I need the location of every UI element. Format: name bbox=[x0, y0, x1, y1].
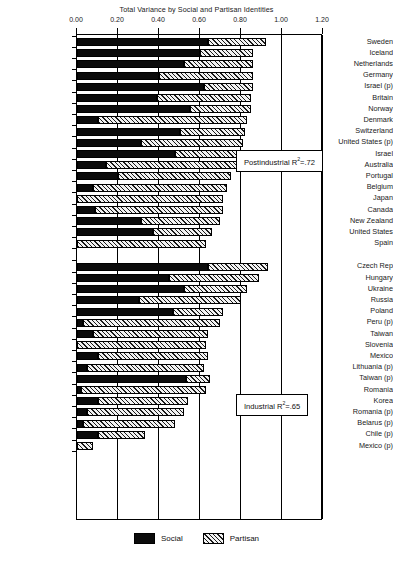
bar-segment-partisan bbox=[141, 139, 244, 147]
bar-segment-social bbox=[77, 431, 98, 439]
y-tick bbox=[72, 36, 76, 37]
y-axis-label: Ukraine bbox=[319, 284, 393, 293]
legend-label-social: Social bbox=[161, 534, 183, 543]
bar-segment-social bbox=[77, 49, 200, 57]
y-tick bbox=[72, 47, 76, 48]
y-tick bbox=[72, 283, 76, 284]
bar-segment-partisan bbox=[77, 240, 206, 248]
y-axis-label: Romania bbox=[319, 385, 393, 394]
bar-segment-social bbox=[77, 116, 98, 124]
bar-segment-social bbox=[77, 364, 87, 372]
y-tick bbox=[72, 114, 76, 115]
bar-segment-partisan bbox=[186, 375, 211, 383]
bar-segment-partisan bbox=[81, 386, 206, 394]
bar-segment-social bbox=[77, 161, 106, 169]
y-axis-label: Korea bbox=[319, 396, 393, 405]
bar-segment-social bbox=[77, 397, 98, 405]
chart-title: Total Variance by Social and Partisan Id… bbox=[0, 5, 393, 14]
bar-segment-social bbox=[77, 206, 95, 214]
y-axis-label: Netherlands bbox=[319, 59, 393, 68]
y-tick bbox=[72, 215, 76, 216]
bar-segment-partisan bbox=[77, 195, 223, 203]
y-tick bbox=[72, 428, 76, 429]
y-tick bbox=[72, 170, 76, 171]
y-axis-label: Belarus (p) bbox=[319, 418, 393, 427]
bar-segment-partisan bbox=[98, 116, 248, 124]
y-tick bbox=[72, 406, 76, 407]
bar-segment-social bbox=[77, 352, 98, 360]
y-axis-label: Portugal bbox=[319, 171, 393, 180]
y-axis-label: United States (p) bbox=[319, 137, 393, 146]
y-axis-label: Iceland bbox=[319, 48, 393, 57]
y-tick bbox=[72, 350, 76, 351]
bar-segment-partisan bbox=[95, 206, 222, 214]
x-tick-label: 0.00 bbox=[69, 16, 83, 23]
y-axis-label: Denmark bbox=[319, 115, 393, 124]
y-axis-label: United States bbox=[319, 227, 393, 236]
y-axis-label: Norway bbox=[319, 104, 393, 113]
legend-label-partisan: Partisan bbox=[230, 534, 259, 543]
bar-segment-partisan bbox=[159, 72, 253, 80]
x-tick-label: 0.60 bbox=[192, 16, 206, 23]
bar-segment-partisan bbox=[141, 217, 221, 225]
y-tick bbox=[72, 316, 76, 317]
y-tick bbox=[72, 136, 76, 137]
bar-segment-social bbox=[77, 296, 139, 304]
y-tick bbox=[72, 328, 76, 329]
y-axis-label: Slovenia bbox=[319, 340, 393, 349]
y-tick bbox=[72, 395, 76, 396]
bar-segment-social bbox=[77, 184, 93, 192]
y-axis-label: Mexico bbox=[319, 351, 393, 360]
y-tick bbox=[72, 237, 76, 238]
y-axis-label: Canada bbox=[319, 205, 393, 214]
y-axis-label: Taiwan (p) bbox=[319, 373, 393, 382]
y-tick bbox=[72, 440, 76, 441]
y-axis-label: Japan bbox=[319, 193, 393, 202]
y-tick bbox=[72, 69, 76, 70]
y-tick bbox=[72, 204, 76, 205]
bar-segment-partisan bbox=[106, 161, 237, 169]
y-tick bbox=[72, 181, 76, 182]
y-tick bbox=[72, 417, 76, 418]
bar-segment-partisan bbox=[139, 296, 242, 304]
bar-segment-social bbox=[77, 72, 159, 80]
y-axis-label: New Zealand bbox=[319, 216, 393, 225]
y-tick bbox=[72, 148, 76, 149]
legend-swatch-social-icon bbox=[134, 533, 155, 544]
y-tick bbox=[72, 103, 76, 104]
bar-segment-partisan bbox=[98, 397, 188, 405]
bar-segment-social bbox=[77, 217, 141, 225]
y-tick bbox=[72, 294, 76, 295]
bar-segment-partisan bbox=[118, 172, 231, 180]
bar-segment-social bbox=[77, 128, 180, 136]
y-tick bbox=[72, 58, 76, 59]
y-axis-label: Spain bbox=[319, 238, 393, 247]
y-tick bbox=[72, 226, 76, 227]
y-tick bbox=[72, 159, 76, 160]
bar-segment-partisan bbox=[173, 308, 222, 316]
bar-segment-partisan bbox=[93, 330, 208, 338]
bar-segment-partisan bbox=[93, 184, 226, 192]
bar-segment-partisan bbox=[87, 408, 183, 416]
y-axis-label: Romania (p) bbox=[319, 407, 393, 416]
x-tick-label: 1.20 bbox=[315, 16, 329, 23]
bar-segment-social bbox=[77, 94, 157, 102]
bar-segment-social bbox=[77, 60, 184, 68]
bar-segment-social bbox=[77, 172, 118, 180]
y-axis-label: Israel (p) bbox=[319, 81, 393, 90]
y-tick bbox=[72, 372, 76, 373]
legend-swatch-partisan-icon bbox=[203, 533, 224, 544]
y-axis-label: Belgium bbox=[319, 182, 393, 191]
bar-segment-social bbox=[77, 308, 173, 316]
y-tick bbox=[72, 92, 76, 93]
bar-segment-social bbox=[77, 38, 208, 46]
annotation-postindustrial-r2: Postindustrial R2=.72 bbox=[236, 150, 323, 172]
y-axis-label: Russia bbox=[319, 295, 393, 304]
y-axis-label: Chile (p) bbox=[319, 429, 393, 438]
y-tick bbox=[72, 248, 76, 249]
y-axis-label: Taiwan bbox=[319, 329, 393, 338]
bar-segment-partisan bbox=[98, 352, 209, 360]
x-tick-label: 0.20 bbox=[110, 16, 124, 23]
bar-segment-social bbox=[77, 228, 153, 236]
bar-segment-social bbox=[77, 105, 190, 113]
